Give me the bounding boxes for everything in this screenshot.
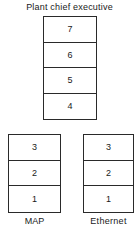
- plant-chief-executive-stack: 7 6 5 4: [43, 16, 97, 120]
- map-label: MAP: [8, 216, 61, 227]
- diagram-title: Plant chief executive: [0, 2, 139, 13]
- ethernet-layer-2-cell: 2: [84, 161, 133, 187]
- layer-5-cell: 5: [44, 68, 96, 94]
- layer-6-cell: 6: [44, 43, 96, 69]
- map-stack: 3 2 1: [8, 134, 61, 213]
- ethernet-layer-3-cell: 3: [84, 135, 133, 161]
- map-layer-2-cell: 2: [9, 161, 60, 187]
- layer-7-cell: 7: [44, 17, 96, 43]
- ethernet-stack: 3 2 1: [83, 134, 134, 213]
- ethernet-label: Ethernet: [83, 216, 134, 227]
- map-layer-1-cell: 1: [9, 186, 60, 212]
- layer-4-cell: 4: [44, 94, 96, 120]
- map-layer-3-cell: 3: [9, 135, 60, 161]
- ethernet-layer-1-cell: 1: [84, 186, 133, 212]
